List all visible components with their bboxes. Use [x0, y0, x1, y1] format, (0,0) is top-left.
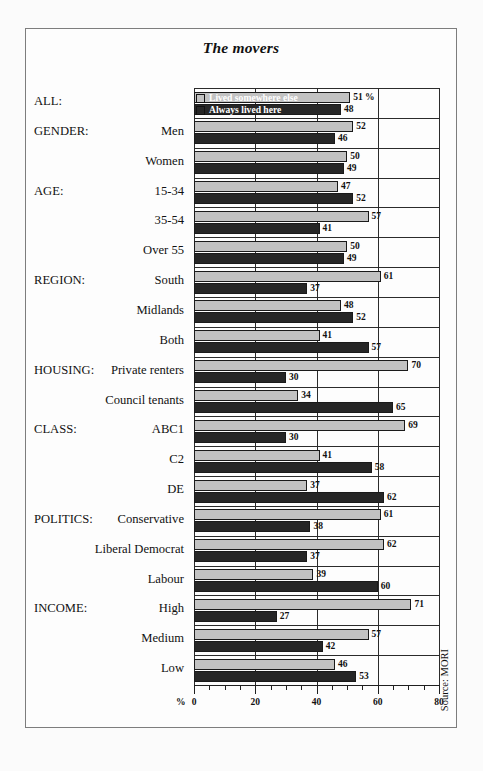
legend-swatch-always-lived-here	[196, 106, 205, 115]
bar-value-label: 37	[310, 480, 320, 491]
bar-always-lived-here	[194, 611, 277, 622]
category-label-35-54: 35-54	[14, 213, 184, 228]
bar-value-label: 60	[381, 581, 391, 592]
bar-lived-somewhere-else	[194, 390, 298, 401]
bar-lived-somewhere-else	[194, 629, 369, 640]
minor-tick-35	[301, 685, 302, 690]
bar-lived-somewhere-else	[194, 599, 411, 610]
row-separator	[194, 536, 439, 537]
row-separator	[194, 118, 439, 119]
group-label-housing-: HOUSING:	[34, 363, 154, 378]
bar-value-label: 46	[338, 133, 348, 144]
category-label-over-55: Over 55	[14, 243, 184, 258]
major-tick-0	[194, 685, 195, 694]
gridline-80	[439, 88, 440, 685]
x-tick-label-80: 80	[424, 697, 454, 707]
x-tick-label-60: 60	[363, 697, 393, 707]
bar-value-label: 70	[411, 360, 421, 371]
row-separator	[194, 595, 439, 596]
bar-always-lived-here	[194, 253, 344, 264]
bar-value-label: 48	[344, 104, 354, 115]
bar-value-label: 52	[356, 312, 366, 323]
bar-always-lived-here	[194, 521, 310, 532]
bar-lived-somewhere-else	[194, 360, 408, 371]
bar-value-label: 34	[301, 390, 311, 401]
bar-value-label: 71	[414, 599, 424, 610]
bar-value-label: 57	[372, 211, 382, 222]
bar-value-label: 47	[341, 181, 351, 192]
category-label-c2: C2	[14, 452, 184, 467]
bar-value-label: 52	[356, 121, 366, 132]
bar-value-label: 61	[384, 509, 394, 520]
group-label-class-: CLASS:	[34, 422, 154, 437]
group-label-region-: REGION:	[34, 273, 154, 288]
minor-tick-70	[408, 685, 409, 690]
bar-always-lived-here	[194, 432, 286, 443]
x-tick-label-40: 40	[302, 697, 332, 707]
row-separator	[194, 267, 439, 268]
row-separator	[194, 297, 439, 298]
category-label-low: Low	[14, 661, 184, 676]
bar-always-lived-here	[194, 133, 335, 144]
category-label-women: Women	[14, 154, 184, 169]
bar-value-label: 51 %	[353, 92, 374, 103]
bar-always-lived-here	[194, 223, 320, 234]
bar-value-label: 46	[338, 659, 348, 670]
row-separator	[194, 178, 439, 179]
legend-swatch-lived-somewhere-else	[196, 94, 205, 103]
group-label-politics-: POLITICS:	[34, 512, 154, 527]
bar-value-label: 50	[350, 241, 360, 252]
minor-tick-5	[209, 685, 210, 690]
bar-value-label: 65	[396, 402, 406, 413]
bar-value-label: 42	[326, 641, 336, 652]
row-separator	[194, 625, 439, 626]
bar-lived-somewhere-else	[194, 271, 381, 282]
bar-always-lived-here	[194, 312, 353, 323]
bar-value-label: 49	[347, 253, 357, 264]
bar-always-lived-here	[194, 283, 307, 294]
chart-title: The movers	[26, 39, 456, 57]
group-label-all-: ALL:	[34, 94, 154, 109]
bar-value-label: 53	[359, 671, 369, 682]
bar-value-label: 30	[289, 372, 299, 383]
major-tick-20	[255, 685, 256, 694]
row-separator	[194, 416, 439, 417]
minor-tick-75	[424, 685, 425, 690]
bar-lived-somewhere-else	[194, 121, 353, 132]
bar-lived-somewhere-else	[194, 300, 341, 311]
bar-value-label: 58	[375, 462, 385, 473]
bar-lived-somewhere-else	[194, 211, 369, 222]
row-separator	[194, 387, 439, 388]
bar-lived-somewhere-else	[194, 569, 313, 580]
bar-value-label: 38	[313, 521, 323, 532]
group-label-age-: AGE:	[34, 184, 154, 199]
bar-lived-somewhere-else	[194, 420, 405, 431]
bar-lived-somewhere-else	[194, 181, 338, 192]
row-separator	[194, 566, 439, 567]
bar-value-label: 62	[387, 492, 397, 503]
bar-value-label: 69	[408, 420, 418, 431]
row-separator	[194, 446, 439, 447]
row-separator	[194, 148, 439, 149]
bar-value-label: 37	[310, 283, 320, 294]
bar-lived-somewhere-else	[194, 450, 320, 461]
bar-lived-somewhere-else	[194, 330, 320, 341]
category-label-both: Both	[14, 333, 184, 348]
chart-frame: The movers 51 %4852465049475257415049613…	[25, 28, 457, 728]
x-tick-label-20: 20	[240, 697, 270, 707]
bar-always-lived-here	[194, 551, 307, 562]
bar-always-lived-here	[194, 641, 323, 652]
row-separator	[194, 655, 439, 656]
bar-value-label: 57	[372, 629, 382, 640]
bar-always-lived-here	[194, 402, 393, 413]
legend-label-lived-somewhere-else: Lived somewhere else	[206, 92, 298, 103]
group-label-income-: INCOME:	[34, 601, 154, 616]
bar-value-label: 50	[350, 151, 360, 162]
plot-area: 51 %485246504947525741504961374852415770…	[194, 88, 439, 685]
major-tick-40	[317, 685, 318, 694]
category-label-liberal-democrat: Liberal Democrat	[14, 542, 184, 557]
minor-tick-55	[362, 685, 363, 690]
row-separator	[194, 327, 439, 328]
minor-tick-15	[240, 685, 241, 690]
major-tick-80	[439, 685, 440, 694]
